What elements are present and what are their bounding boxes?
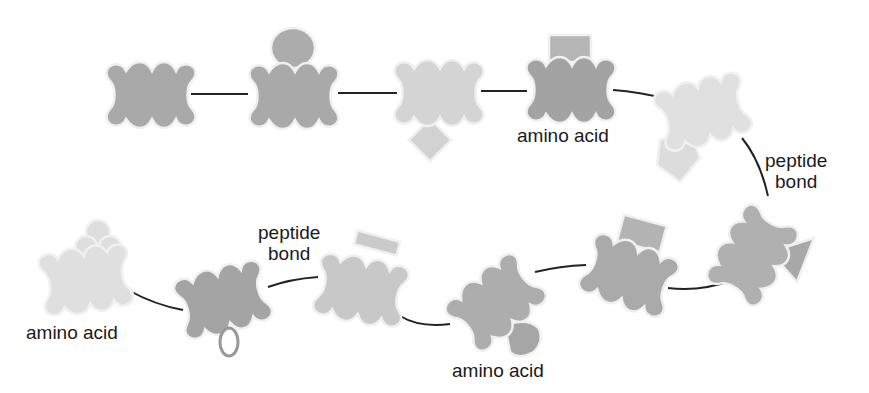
bond-9-10 [268, 277, 318, 287]
label-peptide-bond-left-line1: peptide [258, 222, 320, 243]
amino-acid-5 [651, 68, 754, 182]
amino-acid-11 [37, 220, 134, 319]
label-amino-acid-left: amino acid [26, 322, 118, 343]
label-peptide-bond-right-line1: peptide [765, 150, 827, 171]
amino-acid-7 [576, 215, 682, 322]
diagram-canvas [0, 0, 869, 393]
amino-acid-10 [171, 256, 274, 356]
bond-8-9 [400, 316, 450, 325]
label-amino-acid-bottom: amino acid [452, 360, 544, 381]
bond-7-8 [535, 265, 586, 272]
amino-acid-6 [702, 200, 814, 310]
label-peptide-bond-right-line2: bond [765, 171, 827, 192]
amino-acid-3 [394, 60, 483, 161]
amino-acid-8 [440, 248, 551, 356]
peptide-chain-diagram: amino acid peptide bond peptide bond ami… [0, 0, 869, 393]
amino-acid-1 [106, 62, 195, 128]
label-peptide-bond-left: peptide bond [258, 222, 320, 264]
amino-acid-9 [311, 231, 410, 331]
label-peptide-bond-left-line2: bond [258, 243, 320, 264]
amino-acid-4 [526, 35, 615, 123]
label-peptide-bond-right: peptide bond [765, 150, 827, 192]
label-amino-acid-top: amino acid [517, 125, 609, 146]
amino-acid-2 [249, 28, 338, 129]
